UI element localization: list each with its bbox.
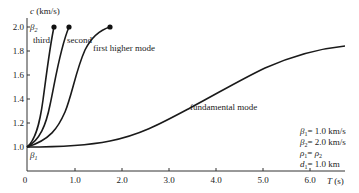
- x-tick-label: 0: [23, 175, 28, 185]
- beta1-axis-label: β1: [29, 150, 37, 161]
- second-mode-curve: [27, 27, 69, 147]
- y-tick-label: 1.2: [13, 118, 24, 128]
- second-mode-end-marker: [66, 24, 71, 29]
- param-d1: d1= 1.0 km: [300, 159, 340, 170]
- third-mode-end-marker: [51, 24, 56, 29]
- first-higher-mode-end-marker: [107, 24, 112, 29]
- x-tick-label: 1.0: [69, 175, 81, 185]
- x-tick-label: 5.0: [257, 175, 269, 185]
- x-axis-title: T (s): [327, 176, 344, 186]
- third-mode-label: third: [33, 35, 50, 45]
- first-higher-mode-label: first higher mode: [93, 43, 155, 53]
- fundamental-mode-curve: [27, 46, 345, 147]
- y-tick-label: 1.6: [13, 70, 25, 80]
- x-tick-label: 6.0: [304, 175, 316, 185]
- parameter-legend: β1= 1.0 km/s β2= 2.0 km/s ρ1= ρ2 d1= 1.0…: [299, 126, 346, 170]
- y-tick-label: 2.0: [13, 22, 25, 32]
- x-tick-label: 3.0: [163, 175, 175, 185]
- param-beta2: β2= 2.0 km/s: [299, 137, 346, 148]
- y-tick-label: 1.4: [13, 94, 25, 104]
- x-tick-label: 2.0: [116, 175, 128, 185]
- y-tick-label: 1.0: [13, 142, 25, 152]
- y-tick-label: 1.8: [13, 46, 25, 56]
- fundamental-mode-label: fundamental mode: [190, 102, 257, 112]
- param-beta1: β1= 1.0 km/s: [299, 126, 346, 137]
- third-mode-curve: [27, 27, 54, 147]
- param-rho: ρ1= ρ2: [299, 148, 322, 159]
- dispersion-chart: 2.0 1.8 1.6 1.4 1.2 1.0 0 1.0 2.0 3.0 4.…: [0, 0, 359, 193]
- second-mode-label: second: [67, 35, 92, 45]
- x-tick-label: 4.0: [210, 175, 222, 185]
- beta2-axis-label: β2: [29, 22, 37, 33]
- y-axis-title: c (km/s): [30, 6, 60, 16]
